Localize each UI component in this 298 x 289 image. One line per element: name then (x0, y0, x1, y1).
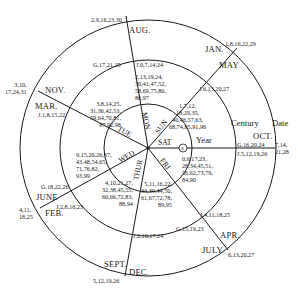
century-j-aug: J.0,7,14,24 (136, 61, 163, 68)
years-thur: 4,10,21,27, 32,38,45,55, 60,66,72,83, 88… (102, 179, 133, 207)
years-fri: 5,11,16,22, 33,39,44,50, 61,67,72,78, 89… (141, 180, 172, 208)
month-nov: NOV. (45, 86, 65, 95)
dates-apr-july: 6,13,20,27 (228, 251, 254, 258)
month-dec: DEC. (129, 268, 149, 277)
month-june: JUNE (36, 193, 58, 202)
years-sat: 0,6,17,23, 28,34,45,51, 56,62,73,79, 84,… (182, 155, 213, 183)
dates-jan-may: 1,8,16,22,29 (225, 40, 256, 47)
years-mon: 2,13,19,24, 30,41,47,52, 58,69,75,80, 86… (135, 73, 166, 101)
century-j-oct: J.5,12,19,26 (237, 150, 267, 157)
x-marker: x (181, 144, 184, 151)
center-dot (146, 146, 149, 149)
month-may: MAY (219, 61, 239, 70)
years-wed: 9,15,20,26,37, 43,48,54,65, 71,76,82, 93… (76, 151, 112, 179)
century-g-june: G.18,22,26 (41, 183, 69, 190)
century-j-jan: J.6,13,20,27 (199, 85, 229, 92)
header-date: Date (272, 119, 288, 128)
header-year: Year (196, 136, 212, 145)
month-apr: APR. (220, 231, 240, 240)
century-g-july: G.15,19,23 (176, 225, 204, 232)
dates-nov-mar: 3,10, 17,24,31 (5, 81, 27, 95)
century-j-mar: J.1,8,15,22 (38, 111, 65, 118)
years-sun: 1,7,12, 18,29,35, 40,46,57,63, 68,74,85,… (169, 102, 206, 130)
month-feb: FEB. (45, 209, 64, 218)
weekday-sat: SAT (158, 139, 172, 147)
century-j-sept: J.2,10,17,24 (133, 232, 163, 239)
dates-aug: 2,9,16,23,30 (91, 16, 122, 23)
century-g-aug: G.17,21,25 (93, 61, 121, 68)
century-j-apr: J.4,11,18,25 (200, 211, 230, 218)
century-g-oct: G.16,20,24 (237, 141, 265, 148)
dates-june-feb: 4,11, 18,25 (19, 206, 33, 220)
dates-sept-dec: 5,12,19,26 (93, 277, 119, 284)
month-mar: MAR. (35, 102, 58, 111)
month-aug: AUG. (129, 26, 151, 35)
month-july: JULY (202, 246, 223, 255)
month-sept: SEPT. (104, 260, 127, 269)
month-jan: JAN. (205, 45, 224, 54)
dates-oct: 7,14, 21,28 (275, 141, 289, 155)
header-century: Century (231, 119, 259, 128)
month-oct: OCT. (253, 132, 273, 141)
years-tue: 3,8,14,25, 31,36,42,53, 59,64,70,81, 87,… (90, 100, 121, 128)
